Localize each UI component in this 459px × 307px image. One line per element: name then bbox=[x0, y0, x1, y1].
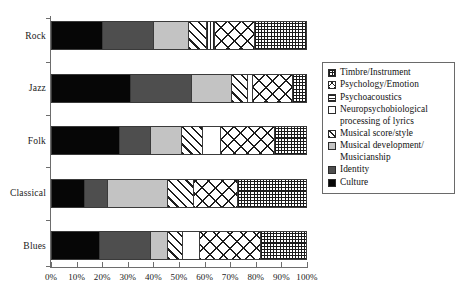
legend-label: Culture bbox=[340, 177, 450, 188]
x-axis-label: 50% bbox=[171, 272, 188, 282]
solid-light-gray-icon bbox=[328, 142, 336, 150]
diagonal-hatch-icon bbox=[328, 130, 336, 138]
bar-segment bbox=[261, 232, 306, 259]
legend-label: Identity bbox=[340, 164, 450, 175]
x-axis-tick bbox=[77, 262, 78, 268]
bar-segment bbox=[103, 22, 154, 49]
x-axis-tick bbox=[128, 262, 129, 268]
bar-segment bbox=[232, 75, 247, 102]
x-axis-tick bbox=[51, 262, 52, 268]
bar-segment bbox=[253, 75, 294, 102]
bar-group-blues bbox=[51, 231, 307, 260]
legend-item: Timbre/Instrument bbox=[328, 67, 450, 78]
x-axis-tick bbox=[205, 262, 206, 268]
legend-label: Psychoacoustics bbox=[340, 92, 450, 103]
legend-item: Musical development/ Musicianship bbox=[328, 140, 450, 163]
bar-segment bbox=[189, 22, 207, 49]
bar-group-folk bbox=[51, 126, 307, 155]
x-axis-label: 60% bbox=[196, 272, 213, 282]
x-axis-tick bbox=[179, 262, 180, 268]
category-label-classical: Classical bbox=[0, 179, 46, 208]
category-label-blues: Blues bbox=[0, 231, 46, 260]
x-axis-tick bbox=[102, 262, 103, 268]
bar-group-rock bbox=[51, 21, 307, 50]
bar-segment bbox=[215, 22, 256, 49]
bar-segment bbox=[168, 232, 183, 259]
legend-item: Neuropsychobiological processing of lyri… bbox=[328, 104, 450, 127]
bar-segment bbox=[183, 232, 199, 259]
bar-segment bbox=[221, 127, 275, 154]
stacked-bar-chart: RockJazzFolkClassicalBlues 0%10%20%30%40… bbox=[0, 0, 459, 307]
chart-legend: Timbre/InstrumentPsychology/EmotionPsych… bbox=[322, 62, 455, 194]
category-label-rock: Rock bbox=[0, 21, 46, 50]
x-axis-label: 100% bbox=[296, 272, 317, 282]
bar-segment bbox=[192, 75, 233, 102]
bar-segment bbox=[168, 180, 193, 207]
legend-label: Neuropsychobiological processing of lyri… bbox=[340, 104, 450, 127]
fine-lines-icon bbox=[328, 94, 336, 102]
legend-item: Identity bbox=[328, 164, 450, 175]
bar-segment bbox=[154, 22, 190, 49]
bar-segment bbox=[52, 180, 85, 207]
bar-segment bbox=[100, 232, 151, 259]
fine-grid-icon bbox=[328, 69, 336, 77]
stacked-bar bbox=[51, 74, 307, 103]
x-axis-label: 10% bbox=[68, 272, 85, 282]
bar-segment bbox=[52, 75, 131, 102]
legend-label: Psychology/Emotion bbox=[340, 79, 450, 90]
solid-black-icon bbox=[328, 179, 336, 187]
bar-segment bbox=[131, 75, 192, 102]
bar-segment bbox=[108, 180, 169, 207]
bar-segment bbox=[255, 22, 306, 49]
legend-label: Musical score/style bbox=[340, 128, 450, 139]
x-axis-tick bbox=[153, 262, 154, 268]
x-axis-label: 80% bbox=[247, 272, 264, 282]
x-axis-label: 40% bbox=[145, 272, 162, 282]
x-axis-tick bbox=[307, 262, 308, 268]
x-axis-tick bbox=[256, 262, 257, 268]
legend-item: Psychology/Emotion bbox=[328, 79, 450, 90]
blank-white-icon bbox=[328, 106, 336, 114]
stacked-bar bbox=[51, 21, 307, 50]
bar-segment bbox=[275, 127, 306, 154]
bar-segment bbox=[207, 22, 215, 49]
legend-label: Timbre/Instrument bbox=[340, 67, 450, 78]
stacked-bar bbox=[51, 126, 307, 155]
bar-group-jazz bbox=[51, 74, 307, 103]
plot-area bbox=[51, 18, 307, 266]
bar-group-classical bbox=[51, 179, 307, 208]
category-label-folk: Folk bbox=[0, 126, 46, 155]
stacked-bar bbox=[51, 231, 307, 260]
bar-segment bbox=[52, 127, 120, 154]
bar-segment bbox=[85, 180, 108, 207]
x-axis-label: 20% bbox=[94, 272, 111, 282]
bar-segment bbox=[238, 180, 306, 207]
legend-item: Culture bbox=[328, 177, 450, 188]
bar-segment bbox=[203, 127, 221, 154]
cross-hatch-icon bbox=[328, 81, 336, 89]
stacked-bar bbox=[51, 179, 307, 208]
x-axis-label: 0% bbox=[45, 272, 57, 282]
solid-dark-gray-icon bbox=[328, 166, 336, 174]
bar-segment bbox=[200, 232, 261, 259]
x-axis-label: 90% bbox=[273, 272, 290, 282]
bar-segment bbox=[52, 232, 100, 259]
bar-segment bbox=[120, 127, 151, 154]
legend-item: Musical score/style bbox=[328, 128, 450, 139]
x-axis-label: 30% bbox=[119, 272, 136, 282]
legend-label: Musical development/ Musicianship bbox=[340, 140, 450, 163]
bar-segment bbox=[194, 180, 238, 207]
x-axis-tick bbox=[281, 262, 282, 268]
x-axis-label: 70% bbox=[222, 272, 239, 282]
bar-segment bbox=[151, 127, 181, 154]
legend-item: Psychoacoustics bbox=[328, 92, 450, 103]
bar-segment bbox=[52, 22, 103, 49]
category-label-jazz: Jazz bbox=[0, 74, 46, 103]
bar-segment bbox=[151, 232, 169, 259]
bar-segment bbox=[293, 75, 306, 102]
bar-segment bbox=[182, 127, 203, 154]
x-axis-tick bbox=[230, 262, 231, 268]
